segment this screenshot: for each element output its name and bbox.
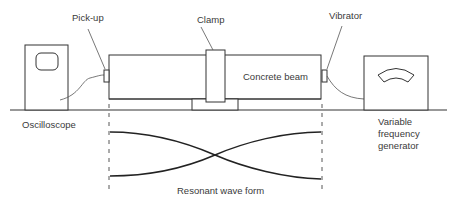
generator-body bbox=[364, 56, 428, 110]
generator-label-line1: Variable bbox=[378, 116, 412, 127]
vibrator-transducer-icon bbox=[322, 70, 327, 82]
frequency-generator bbox=[364, 56, 428, 110]
resonance-test-diagram: Oscilloscope Clamp Concrete beam Pick-up… bbox=[0, 0, 449, 200]
clamp-leader-line bbox=[201, 27, 213, 50]
pickup-label: Pick-up bbox=[72, 12, 104, 23]
wave-form-label: Resonant wave form bbox=[177, 185, 264, 196]
diagram-canvas: Oscilloscope Clamp Concrete beam Pick-up… bbox=[0, 0, 449, 200]
concrete-beam-label: Concrete beam bbox=[243, 71, 308, 82]
vibrator-label: Vibrator bbox=[329, 10, 362, 21]
oscilloscope bbox=[25, 45, 68, 110]
generator-label-line2: frequency bbox=[378, 128, 420, 139]
oscilloscope-screen-icon bbox=[36, 53, 58, 70]
pickup-transducer-icon bbox=[104, 70, 109, 82]
oscilloscope-label: Oscilloscope bbox=[22, 119, 76, 130]
vibrator-cable bbox=[327, 76, 364, 99]
generator-label-line3: generator bbox=[378, 140, 419, 151]
clamp bbox=[206, 50, 225, 102]
clamp-label: Clamp bbox=[197, 14, 224, 25]
vibrator-leader-line bbox=[327, 26, 342, 69]
wave-curve-ascending bbox=[110, 132, 321, 176]
pickup-leader-line bbox=[88, 29, 105, 69]
